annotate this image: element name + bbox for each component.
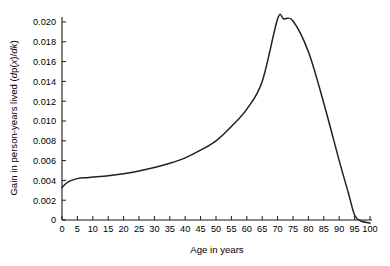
- x-tick-label: 90: [334, 224, 344, 234]
- y-tick-label: 0.020: [33, 17, 56, 27]
- y-axis-ticks: [62, 22, 66, 220]
- data-series-line: [62, 14, 370, 223]
- x-tick-label: 30: [149, 224, 159, 234]
- y-axis-tick-labels: 00.0020.0040.0060.0080.0100.0120.0140.01…: [33, 17, 56, 225]
- line-chart: 00.0020.0040.0060.0080.0100.0120.0140.01…: [0, 0, 390, 266]
- x-tick-label: 75: [288, 224, 298, 234]
- y-axis-title: Gain in person-years lived (dp(x)/dk): [8, 40, 19, 195]
- y-tick-label: 0.016: [33, 57, 56, 67]
- x-axis-tick-labels: 0510152025303540455055606570758085909510…: [59, 224, 377, 234]
- x-tick-label: 60: [242, 224, 252, 234]
- y-tick-label: 0.018: [33, 37, 56, 47]
- x-tick-label: 25: [134, 224, 144, 234]
- y-tick-label: 0.010: [33, 116, 56, 126]
- y-tick-label: 0.006: [33, 156, 56, 166]
- y-axis-title-text: Gain in person-years lived (: [8, 77, 19, 195]
- x-axis-ticks: [62, 216, 370, 220]
- x-tick-label: 10: [88, 224, 98, 234]
- x-tick-label: 0: [59, 224, 64, 234]
- x-tick-label: 20: [118, 224, 128, 234]
- x-tick-label: 50: [211, 224, 221, 234]
- x-tick-label: 35: [165, 224, 175, 234]
- x-tick-label: 70: [272, 224, 282, 234]
- y-tick-label: 0: [51, 215, 56, 225]
- x-tick-label: 85: [319, 224, 329, 234]
- x-tick-label: 65: [257, 224, 267, 234]
- y-axis-title-text: ): [8, 40, 19, 43]
- y-tick-label: 0.014: [33, 77, 56, 87]
- x-tick-label: 95: [349, 224, 359, 234]
- chart-figure: 00.0020.0040.0060.0080.0100.0120.0140.01…: [0, 0, 390, 266]
- x-axis-title: Age in years: [190, 244, 244, 255]
- x-tick-label: 100: [362, 224, 377, 234]
- y-tick-label: 0.004: [33, 176, 56, 186]
- y-tick-label: 0.002: [33, 196, 56, 206]
- x-tick-label: 5: [75, 224, 80, 234]
- x-tick-label: 15: [103, 224, 113, 234]
- y-tick-label: 0.012: [33, 97, 56, 107]
- x-tick-label: 80: [303, 224, 313, 234]
- x-tick-label: 45: [195, 224, 205, 234]
- y-tick-label: 0.008: [33, 136, 56, 146]
- x-tick-label: 55: [226, 224, 236, 234]
- x-tick-label: 40: [180, 224, 190, 234]
